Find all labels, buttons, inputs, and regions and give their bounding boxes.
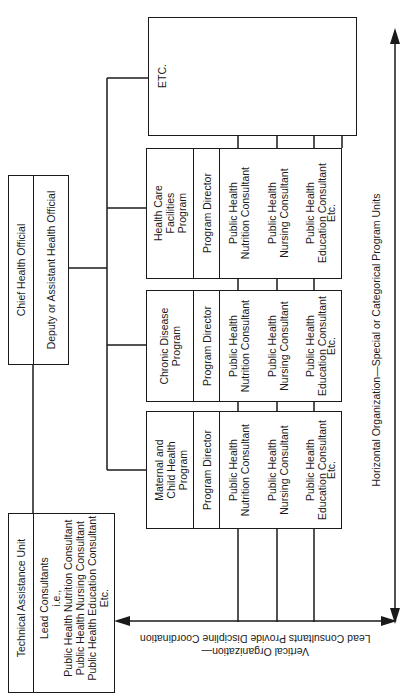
program-name: Health Care Facilities Program — [152, 185, 188, 241]
program-name: Maternal and Child Health Program — [152, 439, 188, 500]
program-name: ETC. — [156, 65, 168, 89]
program-box-maternal-child-health: Maternal and Child Health Program Progra… — [146, 411, 342, 529]
technical-assistance-unit-box: Technical Assistance Unit Lead Consultan… — [8, 513, 115, 693]
nutrition-consultant: Public Health Nutrition Consultant — [227, 424, 251, 516]
nutrition-consultant: Public Health Nutrition Consultant — [227, 167, 251, 259]
technical-assistance-unit-title: Technical Assistance Unit — [15, 539, 27, 657]
nutrition-consultant: Public Health Nutrition Consultant — [227, 300, 251, 392]
horizontal-organization-label-container: Horizontal Organization—Special or Categ… — [364, 100, 388, 580]
nursing-consultant: Public Health Nursing Consultant — [266, 301, 290, 390]
nursing-consultant: Public Health Nursing Consultant — [266, 169, 290, 258]
program-box-health-care-facilities: Health Care Facilities Program Program D… — [146, 148, 342, 279]
deputy-health-official-label: Deputy or Assistant Health Official — [45, 191, 57, 350]
chief-health-official-box: Chief Health Official Deputy or Assistan… — [8, 175, 69, 365]
program-name: Chronic Disease Program — [158, 307, 182, 384]
program-box-etc: ETC. — [148, 17, 357, 136]
etc-label: Etc. — [325, 337, 337, 355]
program-director: Program Director — [201, 174, 213, 254]
program-box-chronic-disease: Chronic Disease Program Program Director… — [146, 290, 342, 402]
etc-label: Etc. — [325, 461, 337, 479]
lead-consultants-list: Lead Consultants i.e., Public Health Nut… — [38, 516, 110, 681]
vertical-organization-label-container: Vertical Organization— Lead Consultants … — [110, 626, 400, 666]
horizontal-organization-label: Horizontal Organization—Special or Categ… — [370, 194, 382, 487]
program-director: Program Director — [201, 430, 213, 510]
etc-label: Etc. — [325, 204, 337, 222]
chief-health-official-label: Chief Health Official — [15, 224, 27, 317]
vertical-organization-label: Vertical Organization— Lead Consultants … — [140, 633, 371, 658]
program-director: Program Director — [201, 306, 213, 386]
nursing-consultant: Public Health Nursing Consultant — [266, 425, 290, 514]
